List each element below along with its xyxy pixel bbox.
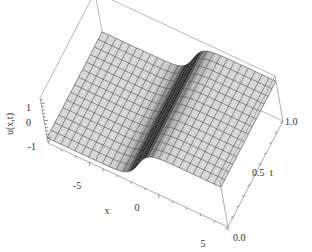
x-axis-label: x [105, 205, 110, 216]
x-tick-0: 0 [135, 202, 140, 213]
t-axis-label: t [270, 167, 273, 178]
x-tick-minus5: -5 [73, 180, 81, 191]
z-tick-minus1: -1 [28, 141, 36, 152]
z-axis-label: u(x,t) [4, 113, 16, 135]
surface-plot: u(x,t) 1 0 -1 -5 x 0 5 0.0 0.5 t 1.0 [0, 0, 312, 252]
z-tick-1: 1 [26, 102, 31, 113]
t-tick-1: 1.0 [285, 116, 298, 127]
t-tick-0-5: 0.5 [252, 167, 265, 178]
surface-mesh [47, 32, 276, 187]
z-tick-0: 0 [26, 117, 31, 128]
t-tick-0: 0.0 [233, 232, 246, 243]
x-tick-5: 5 [201, 238, 206, 249]
